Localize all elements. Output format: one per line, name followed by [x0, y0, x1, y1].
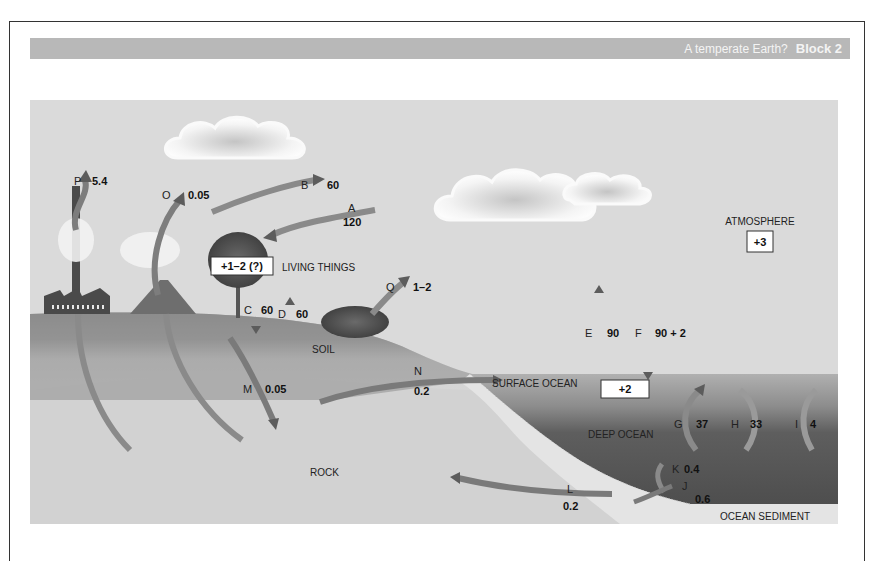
svg-text:0.05: 0.05 [188, 189, 209, 201]
svg-text:F: F [635, 327, 642, 339]
svg-text:0.4: 0.4 [684, 463, 700, 475]
header-text: A temperate Earth?Block 2 [684, 41, 842, 56]
region-atmosphere: ATMOSPHERE [725, 216, 795, 227]
region-living-things: LIVING THINGS [282, 262, 355, 273]
svg-text:N: N [414, 365, 422, 377]
svg-text:+1–2 (?): +1–2 (?) [221, 260, 263, 272]
svg-text:0.2: 0.2 [414, 385, 429, 397]
svg-text:A: A [348, 202, 356, 214]
svg-text:J: J [682, 480, 688, 492]
svg-text:5.4: 5.4 [92, 175, 108, 187]
svg-text:60: 60 [296, 308, 308, 320]
region-soil: SOIL [312, 344, 335, 355]
svg-text:60: 60 [261, 304, 273, 316]
carbon-cycle-diagram: +1–2 (?) +3 +2 ATMOSPHERE LIVING THINGS … [30, 100, 838, 524]
svg-text:37: 37 [696, 418, 708, 430]
svg-text:0.2: 0.2 [563, 500, 578, 512]
svg-text:O: O [162, 189, 171, 201]
region-ocean-sediment: OCEAN SEDIMENT [720, 511, 810, 522]
svg-text:I: I [795, 418, 798, 430]
svg-text:33: 33 [750, 418, 762, 430]
svg-text:Q: Q [386, 281, 395, 293]
svg-text:90 + 2: 90 + 2 [655, 327, 686, 339]
svg-text:120: 120 [343, 216, 361, 228]
svg-text:E: E [585, 327, 592, 339]
svg-text:B: B [301, 179, 308, 191]
svg-text:+3: +3 [754, 236, 767, 248]
living-things-box: +1–2 (?) [211, 257, 273, 275]
svg-text:G: G [674, 418, 683, 430]
header-title: A temperate Earth? [684, 42, 787, 56]
svg-text:D: D [278, 308, 286, 320]
svg-text:H: H [731, 418, 739, 430]
svg-text:K: K [672, 463, 680, 475]
svg-text:M: M [243, 383, 252, 395]
svg-text:4: 4 [810, 418, 817, 430]
svg-text:0.6: 0.6 [695, 493, 710, 505]
region-rock: ROCK [310, 467, 339, 478]
region-surface-ocean: SURFACE OCEAN [492, 378, 578, 389]
header-block: Block 2 [796, 41, 842, 56]
svg-text:0.05: 0.05 [265, 383, 286, 395]
header-bar: A temperate Earth?Block 2 [30, 38, 850, 59]
svg-text:+2: +2 [619, 383, 632, 395]
region-deep-ocean: DEEP OCEAN [588, 429, 653, 440]
atmosphere-box: +3 [747, 231, 773, 252]
svg-text:L: L [567, 483, 573, 495]
surface-ocean-box: +2 [601, 380, 649, 398]
svg-text:90: 90 [607, 327, 619, 339]
svg-text:1–2: 1–2 [413, 281, 431, 293]
svg-text:P: P [74, 175, 81, 187]
svg-text:C: C [244, 304, 252, 316]
svg-text:60: 60 [327, 179, 339, 191]
